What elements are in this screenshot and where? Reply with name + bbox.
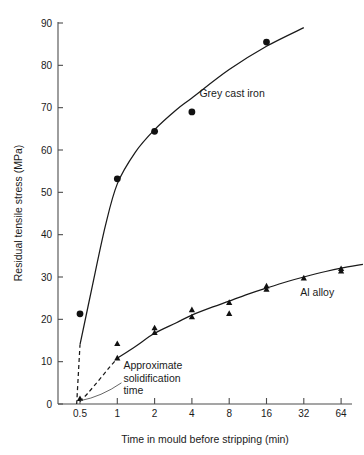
series-label-grey-cast-iron: Grey cast iron xyxy=(199,87,265,99)
data-point-circle xyxy=(263,39,270,46)
data-point-triangle xyxy=(114,340,120,346)
data-point-triangle xyxy=(189,307,195,313)
chart-plot-area: 0102030405060708090 0.51248163264 Grey c… xyxy=(0,0,364,455)
series-fit-curve xyxy=(80,28,304,345)
series-grey-cast-iron: Grey cast iron xyxy=(77,28,304,404)
annotation-text-line: Approximate xyxy=(123,359,182,371)
x-axis-title: Time in mould before stripping (min) xyxy=(121,433,289,445)
data-point-triangle xyxy=(226,310,232,316)
y-axis-title: Residual tensile stress (MPa) xyxy=(12,145,24,282)
x-tick-label: 8 xyxy=(226,408,232,419)
x-tick-label: 4 xyxy=(189,408,195,419)
annotation-approximate-solidification-time: Approximatesolidificationtime xyxy=(81,359,183,400)
annotation-leader-line xyxy=(81,383,122,401)
data-point-circle xyxy=(77,310,84,317)
x-tick-label: 2 xyxy=(152,408,158,419)
series-label-al-alloy: Al alloy xyxy=(300,286,335,298)
y-tick-label: 30 xyxy=(41,272,53,283)
series-dashed-extrapolation xyxy=(77,345,80,404)
y-tick-label: 50 xyxy=(41,187,53,198)
series-al-alloy: Al alloy xyxy=(77,264,363,401)
x-tick-label: 64 xyxy=(336,408,348,419)
data-point-circle xyxy=(151,128,158,135)
x-tick-label: 0.5 xyxy=(73,408,87,419)
y-tick-label: 0 xyxy=(46,399,52,410)
y-tick-label: 10 xyxy=(41,356,53,367)
annotation-text-line: solidification xyxy=(123,372,180,384)
y-axis-ticks: 0102030405060708090 xyxy=(41,18,63,410)
x-tick-label: 16 xyxy=(261,408,273,419)
x-axis-ticks: 0.51248163264 xyxy=(73,398,347,419)
chart-figure: 0102030405060708090 0.51248163264 Grey c… xyxy=(0,0,364,455)
data-point-triangle xyxy=(263,283,269,289)
axes-group xyxy=(58,22,352,404)
x-tick-label: 32 xyxy=(298,408,310,419)
data-point-circle xyxy=(114,175,121,182)
annotations-layer: Approximatesolidificationtime xyxy=(81,359,183,400)
x-tick-label: 1 xyxy=(115,408,121,419)
y-tick-label: 40 xyxy=(41,229,53,240)
series-layer: Grey cast ironAl alloy xyxy=(77,28,363,404)
y-tick-label: 80 xyxy=(41,60,53,71)
series-fit-curve xyxy=(117,264,363,358)
annotation-text-line: time xyxy=(123,384,143,396)
data-point-triangle xyxy=(152,325,158,331)
data-point-circle xyxy=(189,109,196,116)
y-tick-label: 90 xyxy=(41,18,53,29)
y-tick-label: 70 xyxy=(41,102,53,113)
y-tick-label: 60 xyxy=(41,145,53,156)
y-tick-label: 20 xyxy=(41,314,53,325)
